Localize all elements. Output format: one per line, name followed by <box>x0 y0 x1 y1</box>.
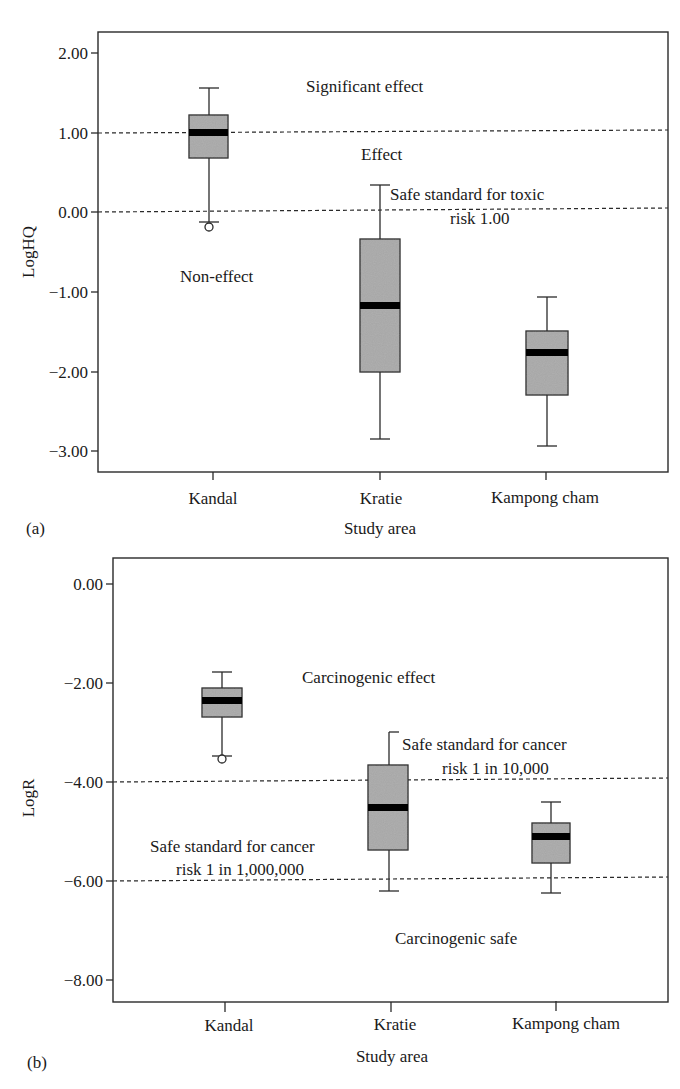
y-tick-label: −2.00 <box>64 674 103 693</box>
y-tick-label: 2.00 <box>58 44 88 63</box>
y-tick-label: −4.00 <box>64 773 103 792</box>
annotation-carcinogenic-safe: Carcinogenic safe <box>395 929 517 948</box>
y-tick-label: −2.00 <box>49 363 88 382</box>
annotation-safe-standard-10000-2: risk 1 in 10,000 <box>442 759 549 778</box>
boxplot-kratie-a <box>360 185 400 439</box>
boxplot-kandal-a <box>189 88 228 231</box>
x-axis-title-a: Study area <box>344 519 417 538</box>
x-tick-label: Kandal <box>188 489 237 508</box>
x-tick-label: Kratie <box>360 489 402 508</box>
annotation-safe-standard-1000000-2: risk 1 in 1,000,000 <box>176 860 304 879</box>
boxplot-kratie-b <box>368 732 408 891</box>
annotation-safe-standard-10000: Safe standard for cancer <box>402 735 567 754</box>
boxplot-kampong-cham-b <box>532 802 570 893</box>
reference-line-1 <box>98 130 668 133</box>
figure: 2.00 1.00 0.00 −1.00 −2.00 −3.00 LogHQ S… <box>0 0 680 1089</box>
annotation-non-effect: Non-effect <box>180 267 254 286</box>
y-tick-label: −3.00 <box>49 442 88 461</box>
x-tick-label: Kratie <box>374 1015 416 1034</box>
x-tick-label: Kampong cham <box>512 1014 620 1033</box>
y-tick-label: −8.00 <box>64 971 103 990</box>
y-axis-b <box>106 584 113 980</box>
outlier-marker <box>205 223 213 231</box>
y-tick-label: −1.00 <box>49 283 88 302</box>
x-axis-a <box>213 472 546 480</box>
x-tick-label: Kandal <box>204 1016 253 1035</box>
x-axis-title-b: Study area <box>356 1047 429 1066</box>
y-axis-title-a: LogHQ <box>19 226 38 278</box>
y-tick-label: 0.00 <box>58 203 88 222</box>
x-tick-label: Kampong cham <box>491 488 599 507</box>
boxplot-kampong-cham-a <box>526 297 568 446</box>
annotation-safe-standard-1000000: Safe standard for cancer <box>150 837 315 856</box>
reference-line-0 <box>98 208 668 212</box>
annotation-safe-standard: Safe standard for toxic <box>390 185 545 204</box>
y-tick-label: 0.00 <box>73 575 103 594</box>
panel-label-b: (b) <box>27 1053 47 1072</box>
y-axis-a <box>91 53 98 451</box>
annotation-safe-standard-2: risk 1.00 <box>450 209 510 228</box>
annotation-significant-effect: Significant effect <box>306 77 424 96</box>
y-axis-title-b: LogR <box>19 778 38 817</box>
annotation-carcinogenic-effect: Carcinogenic effect <box>302 668 436 687</box>
y-tick-label: 1.00 <box>58 124 88 143</box>
boxplot-kandal-b <box>202 672 242 763</box>
outlier-marker <box>218 755 226 763</box>
y-tick-label: −6.00 <box>64 872 103 891</box>
annotation-effect: Effect <box>361 145 402 164</box>
panel-a: 2.00 1.00 0.00 −1.00 −2.00 −3.00 LogHQ S… <box>19 32 668 538</box>
panel-label-a: (a) <box>26 519 45 538</box>
panel-b: 0.00 −2.00 −4.00 −6.00 −8.00 LogR Carcin… <box>19 558 668 1072</box>
